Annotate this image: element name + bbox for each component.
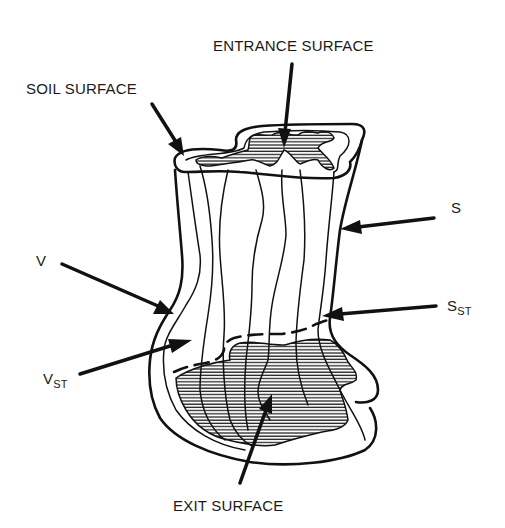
v-st-label: VST (43, 371, 68, 390)
v-label: V (36, 253, 46, 268)
v-st-arrow (80, 346, 170, 374)
s-st-label-main: S (447, 297, 457, 314)
s-st-arrow (340, 306, 436, 314)
v-st-arrowhead (168, 339, 192, 353)
soil-surface-arrowhead (168, 137, 184, 156)
s-label: S (451, 200, 461, 215)
entrance-surface-arrow (285, 64, 292, 132)
v-st-label-main: V (43, 370, 53, 387)
v-arrow (62, 264, 158, 306)
s-st-label: SST (447, 298, 472, 317)
s-st-arrowhead (322, 307, 344, 321)
v-st-label-sub: ST (53, 378, 67, 390)
soil-surface-label: SOIL SURFACE (26, 81, 137, 96)
s-arrowhead (340, 220, 362, 234)
s-st-label-sub: ST (457, 305, 471, 317)
stream-tube-diagram: ENTRANCE SURFACE SOIL SURFACE S V SST VS… (0, 0, 505, 528)
soil-surface-arrow (152, 104, 176, 142)
s-arrow (358, 218, 434, 227)
entrance-surface-label: ENTRANCE SURFACE (213, 38, 374, 53)
exit-surface-label: EXIT SURFACE (173, 498, 283, 513)
